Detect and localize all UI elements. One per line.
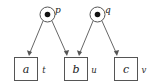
transition-label-b: b <box>72 63 79 76</box>
place-p[interactable]: p <box>40 5 61 23</box>
arc-line <box>30 21 43 53</box>
transition-side-label-u: u <box>91 65 96 75</box>
place-label-p: p <box>55 5 61 15</box>
diagram-canvas: p q a t b u c v <box>0 0 150 84</box>
transition-side-label-t: t <box>42 65 46 75</box>
arc-p-to-b <box>52 21 69 56</box>
transition-b[interactable]: b u <box>65 58 97 81</box>
transition-a[interactable]: a t <box>15 58 47 81</box>
petri-net-diagram: p q a t b u c v <box>0 0 150 84</box>
arrow-head-icon <box>77 50 82 56</box>
transition-label-a: a <box>23 63 30 76</box>
place-label-q: q <box>105 5 111 15</box>
token-dot-icon <box>95 12 101 18</box>
arc-group <box>27 21 119 56</box>
transition-c[interactable]: c v <box>115 58 147 81</box>
arc-p-to-a <box>27 21 43 56</box>
arc-line <box>102 21 116 53</box>
arrow-head-icon <box>114 50 119 56</box>
arrow-head-icon <box>27 50 32 56</box>
arc-line <box>80 21 93 53</box>
transition-label-c: c <box>123 63 129 76</box>
arc-line <box>52 21 66 53</box>
arc-q-to-c <box>102 21 119 56</box>
transition-side-label-v: v <box>142 65 147 75</box>
place-q[interactable]: q <box>90 5 111 23</box>
token-dot-icon <box>45 12 51 18</box>
arc-q-to-b <box>77 21 93 56</box>
arrow-head-icon <box>64 50 69 56</box>
